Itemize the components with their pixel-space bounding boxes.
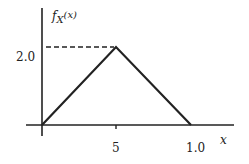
y-label-arg: (x) <box>64 9 78 20</box>
y-tick-label-2: 2.0 <box>16 50 35 64</box>
x-axis-label: x <box>220 133 227 147</box>
pdf-curve <box>42 47 191 125</box>
y-axis-label: fX(x) <box>51 9 77 25</box>
pdf-chart: 2.0 5 1.0 x fX(x) <box>0 0 249 164</box>
x-tick-label-1: 1.0 <box>186 141 205 155</box>
x-tick-label-5: 5 <box>112 141 120 155</box>
